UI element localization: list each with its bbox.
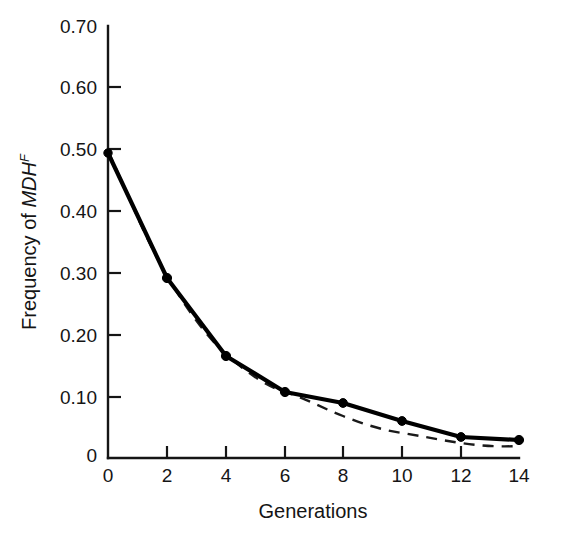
- svg-text:Frequency of MDHF: Frequency of MDHF: [17, 153, 40, 330]
- x-axis-title: Generations: [259, 500, 368, 522]
- expected-curve: [108, 151, 519, 446]
- observed-line: [108, 153, 519, 440]
- xtick-label-2: 2: [162, 465, 173, 486]
- xtick-label-14: 14: [508, 465, 530, 486]
- data-point-gen-12: [457, 433, 466, 442]
- ytick-label-020: 0.20: [60, 325, 97, 346]
- ytick-label-060: 0.60: [60, 77, 97, 98]
- data-point-gen-10: [398, 417, 407, 426]
- ytick-label-030: 0.30: [60, 263, 97, 284]
- ytick-label-0: 0: [86, 445, 97, 466]
- xtick-label-8: 8: [338, 465, 349, 486]
- y-axis-title-superscript: F: [17, 153, 32, 162]
- data-point-gen-2: [162, 273, 171, 282]
- data-point-gen-8: [339, 399, 348, 408]
- ytick-label-010: 0.10: [60, 387, 97, 408]
- xtick-label-6: 6: [280, 465, 291, 486]
- chart-figure: 0.70 0.60 0.50 0.40 0.30 0.20 0.10 0 0 2…: [0, 0, 570, 537]
- ytick-label-050: 0.50: [60, 139, 97, 160]
- y-tick-marks: [108, 87, 121, 397]
- data-point-gen-4: [221, 351, 230, 360]
- xtick-label-12: 12: [450, 465, 471, 486]
- xtick-label-0: 0: [103, 465, 114, 486]
- xtick-label-4: 4: [221, 465, 232, 486]
- data-point-gen-6: [280, 387, 289, 396]
- ytick-label-040: 0.40: [60, 201, 97, 222]
- y-axis-title-prefix: Frequency of: [18, 208, 40, 330]
- chart-canvas: 0.70 0.60 0.50 0.40 0.30 0.20 0.10 0 0 2…: [0, 0, 570, 537]
- xtick-label-10: 10: [391, 465, 412, 486]
- data-point-markers: [104, 149, 524, 445]
- data-point-gen-14: [514, 435, 523, 444]
- y-axis-title-gene: MDH: [18, 161, 40, 207]
- ytick-label-070: 0.70: [60, 16, 97, 37]
- data-point-gen-0: [104, 149, 112, 157]
- y-axis-title: Frequency of MDHF: [17, 153, 40, 330]
- x-tick-marks: [167, 446, 461, 458]
